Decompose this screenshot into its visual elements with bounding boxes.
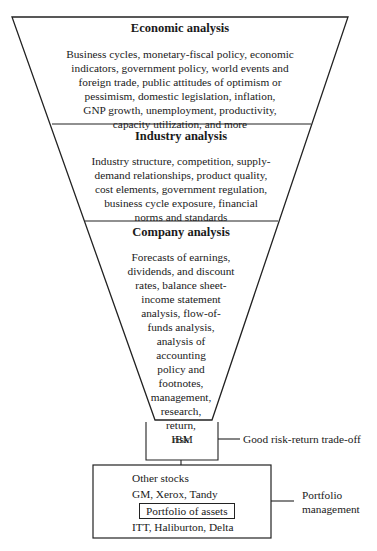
portfolio-line-other-stocks: Other stocks [132, 471, 189, 485]
text-line: business cycle exposure, financial [0, 196, 362, 210]
industry-analysis-body: Industry structure, competition, supply-… [0, 154, 362, 224]
industry-analysis-title: Industry analysis [0, 129, 362, 144]
text-line: analysis of [0, 334, 362, 348]
portfolio-of-assets-box: Portfolio of assets [139, 503, 235, 519]
text-line: demand relationships, product quality, [0, 168, 362, 182]
text-line: analysis, flow-of- [0, 306, 362, 320]
text-line: funds analysis, [0, 320, 362, 334]
text-line: GNP growth, unemployment, productivity, [0, 103, 360, 117]
text-line: foreign trade, public attitudes of optim… [0, 75, 360, 89]
text-line: cost elements, government regulation, [0, 182, 362, 196]
text-line: management, [0, 390, 362, 404]
text-line: Business cycles, monetary-fiscal policy,… [0, 47, 360, 61]
text-line: return, [0, 418, 362, 432]
text-line: norms and standards [0, 210, 362, 224]
text-line: indicators, government policy, world eve… [0, 61, 360, 75]
risk-return-annotation: Good risk-return trade-off [243, 432, 361, 446]
text-line: footnotes, [0, 376, 362, 390]
text-line: accounting [0, 348, 362, 362]
company-analysis-title: Company analysis [0, 225, 362, 240]
text-line: policy and [0, 362, 362, 376]
text-line: pessimism, domestic legislation, inflati… [0, 89, 360, 103]
portfolio-line-itt-haliburton-delta: ITT, Haliburton, Delta [132, 520, 233, 534]
text-line: research, [0, 404, 362, 418]
economic-analysis-body: Business cycles, monetary-fiscal policy,… [0, 47, 360, 131]
portfolio-management-annotation-line1: Portfolio [302, 488, 342, 502]
company-analysis-body: Forecasts of earnings, dividends, and di… [0, 250, 362, 446]
text-line: Industry structure, competition, supply- [0, 154, 362, 168]
economic-analysis-title: Economic analysis [0, 21, 360, 36]
text-line: dividends, and discount [0, 264, 362, 278]
text-line: rates, balance sheet- [0, 278, 362, 292]
selected-stock-label: IBM [146, 432, 218, 446]
portfolio-line-gm-xerox-tandy: GM, Xerox, Tandy [132, 487, 218, 501]
text-line: Forecasts of earnings, [0, 250, 362, 264]
portfolio-management-annotation-line2: management [302, 502, 360, 516]
text-line: income statement [0, 292, 362, 306]
